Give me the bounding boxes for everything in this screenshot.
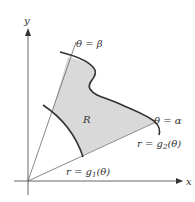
ray-beta-label: θ = β xyxy=(76,38,103,49)
curve-g2-label: r = g2(θ) xyxy=(137,138,181,151)
x-axis-arrow-icon xyxy=(176,178,183,184)
curve-g1-label: r = g1(θ) xyxy=(66,166,110,179)
y-axis-label: y xyxy=(23,15,30,26)
y-axis-arrow-icon xyxy=(25,28,31,36)
polar-region-diagram: y x θ = β θ = α R r = g2(θ) r = g1(θ) xyxy=(0,0,195,202)
x-axis-label: x xyxy=(186,176,192,187)
region-r-label: R xyxy=(82,114,91,125)
ray-alpha-label: θ = α xyxy=(154,115,182,126)
